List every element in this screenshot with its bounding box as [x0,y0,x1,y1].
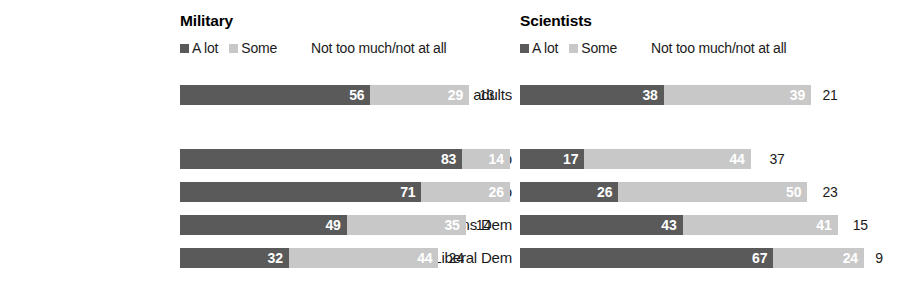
legend-item-a-lot: A lot [520,40,558,56]
panel-military: Military A lot Some Not too much/not at … [0,0,520,305]
panel-title-military: Military [180,12,233,30]
bar-value-a-lot: 56 [349,85,364,105]
bar-segment-a-lot: 43 [520,215,683,235]
bar-value-not-too-much: 24 [449,248,464,268]
bar-value-not-too-much: 9 [875,248,883,268]
bar-value-some: 14 [489,149,504,169]
bar-track: 17 44 37 [520,149,898,169]
bar-segment-some: 29 [370,85,469,105]
table-row: 17 44 37 [520,146,898,172]
bar-segment-some: 50 [618,182,807,202]
bar-segment-some: 24 [773,248,864,268]
bar-value-some: 44 [729,149,744,169]
bar-value-some: 24 [843,248,858,268]
bar-segment-some: 14 [462,149,510,169]
legend-label-a-lot: A lot [532,40,558,56]
bar-segment-some: 26 [421,182,509,202]
bar-value-not-too-much: 23 [822,182,837,202]
legend-swatch-some-icon [569,44,578,53]
bar-value-a-lot: 26 [597,182,612,202]
bar-value-some: 50 [786,182,801,202]
bar-segment-a-lot: 17 [520,149,584,169]
bar-track: 32 44 24 [180,248,520,268]
bar-value-a-lot: 17 [563,149,578,169]
legend-military: A lot Some Not too much/not at all [180,40,447,56]
bar-track: 56 29 13 [180,85,520,105]
bar-area-military-liberal-dem: 32 44 24 [180,245,520,271]
bar-segment-a-lot: 56 [180,85,370,105]
bar-value-not-too-much: 21 [822,85,837,105]
bar-value-some: 26 [489,182,504,202]
legend-scientists: A lot Some Not too much/not at all [520,40,787,56]
bar-value-some: 39 [790,85,805,105]
bar-value-a-lot: 43 [661,215,676,235]
bar-value-not-too-much: 15 [853,215,868,235]
table-row: 38 39 21 [520,82,898,108]
bar-segment-a-lot: 38 [520,85,664,105]
panel-scientists: Scientists A lot Some Not too much/not a… [520,0,898,305]
table-row: Liberal Dem 32 44 24 [0,245,520,271]
bar-value-some: 29 [448,85,463,105]
bar-area-scientists-mod-lip-rep: 26 50 23 [520,179,898,205]
bar-area-scientists-conservative-rep: 17 44 37 [520,146,898,172]
panel-title-scientists: Scientists [520,12,592,30]
bar-segment-a-lot: 26 [520,182,618,202]
table-row: 43 41 15 [520,212,898,238]
bar-segment-some: 39 [664,85,811,105]
bar-area-scientists-liberal-dem: 67 24 9 [520,245,898,271]
bar-value-some: 35 [444,215,459,235]
table-row: U.S. adults 56 29 13 [0,82,520,108]
table-row: 26 50 23 [520,179,898,205]
legend-item-a-lot: A lot [180,40,218,56]
bar-track: 49 35 14 [180,215,520,235]
bar-value-a-lot: 83 [441,149,456,169]
bar-area-military-us-adults: 56 29 13 [180,82,520,108]
legend-swatch-some-icon [229,44,238,53]
legend-swatch-a-lot-icon [520,44,529,53]
bar-value-some: 44 [417,248,432,268]
legend-label-a-lot: A lot [192,40,218,56]
bar-value-not-too-much: 37 [769,149,784,169]
bar-track: 43 41 15 [520,215,898,235]
legend-item-some: Some [569,40,617,56]
bar-area-military-mod-cons-dem: 49 35 14 [180,212,520,238]
bar-track: 26 50 23 [520,182,898,202]
bar-track: 38 39 21 [520,85,898,105]
bar-value-a-lot: 38 [642,85,657,105]
bar-value-not-too-much: 13 [479,85,494,105]
bar-value-a-lot: 32 [268,248,283,268]
table-row: Conservative Rep 83 14 2 [0,146,520,172]
legend-label-not-too-much: Not too much/not at all [651,40,786,56]
bar-value-a-lot: 49 [325,215,340,235]
legend-label-some: Some [581,40,617,56]
bar-track: 71 26 3 [180,182,520,202]
bar-track: 67 24 9 [520,248,898,268]
bar-value-a-lot: 71 [400,182,415,202]
bar-value-some: 41 [816,215,831,235]
legend-label-some: Some [241,40,277,56]
legend-item-some: Some [229,40,277,56]
bar-segment-a-lot: 32 [180,248,289,268]
bar-segment-a-lot: 49 [180,215,347,235]
bar-segment-some: 44 [289,248,439,268]
table-row: Mod/Lip Rep 71 26 3 [0,179,520,205]
bar-segment-a-lot: 83 [180,149,462,169]
bar-area-military-mod-lip-rep: 71 26 3 [180,179,520,205]
bar-segment-some: 35 [347,215,466,235]
bar-value-not-too-much: 14 [476,215,491,235]
bar-area-scientists-mod-cons-dem: 43 41 15 [520,212,898,238]
bar-segment-some: 41 [683,215,838,235]
bar-segment-a-lot: 67 [520,248,773,268]
chart-figure: Military A lot Some Not too much/not at … [0,0,898,305]
bar-value-a-lot: 67 [752,248,767,268]
bar-segment-some: 44 [584,149,750,169]
legend-swatch-a-lot-icon [180,44,189,53]
bar-area-scientists-us-adults: 38 39 21 [520,82,898,108]
bar-segment-a-lot: 71 [180,182,421,202]
table-row: 67 24 9 [520,245,898,271]
bar-area-military-conservative-rep: 83 14 2 [180,146,520,172]
bar-track: 83 14 2 [180,149,520,169]
table-row: Mod/Cons Dem 49 35 14 [0,212,520,238]
legend-label-not-too-much: Not too much/not at all [311,40,446,56]
